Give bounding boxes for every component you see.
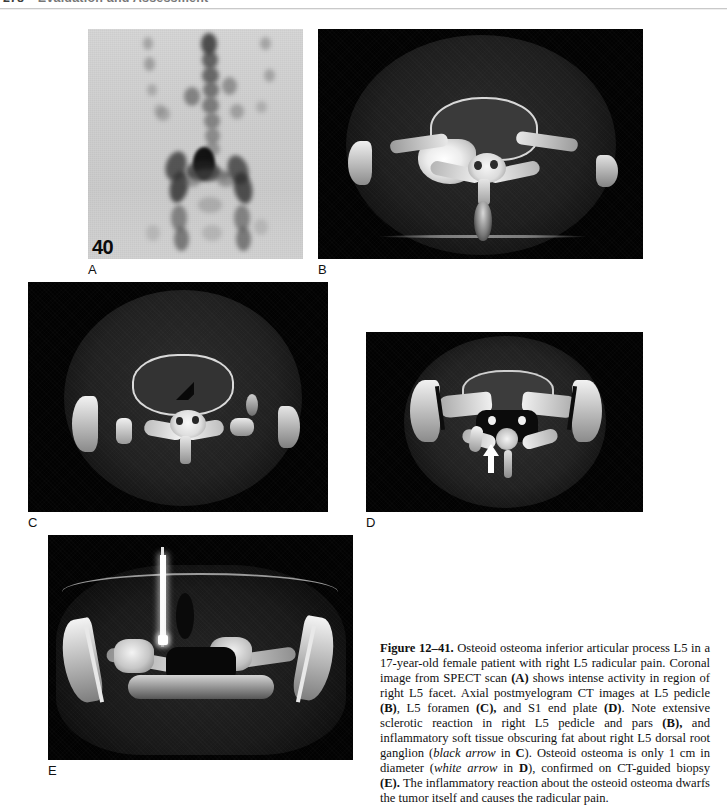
caption-segment: C — [515, 746, 524, 760]
ct-iliac-bone-left — [72, 396, 98, 452]
running-header-content: 278 Evaluation and Assessment — [0, 0, 208, 5]
ct-iliac-bone-left — [348, 141, 372, 185]
caption-segment: in — [496, 746, 516, 760]
spect-uptake — [156, 107, 170, 121]
running-title: Evaluation and Assessment — [38, 0, 209, 5]
ct-superior-articular-process-right — [230, 418, 254, 436]
caption-segment: ), confirmed on CT-guided biopsy — [528, 761, 710, 775]
ct-skin-surface-line — [62, 573, 338, 611]
panel-label-b: B — [318, 263, 327, 276]
caption-segment: D — [519, 761, 528, 775]
caption-segment: in — [498, 761, 519, 775]
ct-spinous-process — [180, 436, 191, 464]
ct-spinous-process-tip — [474, 201, 492, 241]
spect-uptake — [146, 225, 160, 241]
panel-label-e: E — [48, 764, 57, 777]
black-arrow-l5-dorsal-root-ganglion — [170, 380, 196, 404]
spect-uptake — [222, 77, 237, 95]
spect-uptake — [202, 97, 219, 114]
spect-noise-texture — [88, 29, 303, 259]
panel-label-d: D — [366, 516, 375, 529]
figure-panel-b-ct-l5-pedicle — [318, 29, 643, 259]
figure-panel-c-ct-l5-foramen — [28, 282, 328, 512]
ct-nerve-root — [176, 417, 183, 425]
spect-uptake — [202, 225, 222, 241]
ct-nerve-root — [192, 416, 199, 424]
spect-uptake — [230, 104, 244, 119]
caption-segment: The inflammatory reaction about the oste… — [380, 776, 710, 805]
figure-panel-e-ct-guided-biopsy — [48, 535, 353, 760]
ct-nerve-root — [488, 416, 496, 425]
figure-caption-body: Osteoid osteoma inferior articular proce… — [380, 641, 710, 805]
panel-label-c: C — [28, 516, 37, 529]
ct-nerve-root — [490, 160, 498, 169]
ct-sacrum-body — [128, 675, 274, 699]
caption-segment: black arrow — [433, 746, 496, 760]
spect-uptake — [184, 87, 200, 106]
spect-uptake — [254, 219, 268, 235]
spect-slice-marker: 40 — [92, 237, 113, 257]
header-rule-shadow — [0, 9, 727, 10]
ct-nerve-root — [474, 161, 482, 170]
spect-uptake — [204, 113, 220, 129]
ct-iliac-bone-right — [278, 406, 300, 448]
spect-uptake — [256, 101, 267, 113]
caption-segment: (C), — [476, 701, 497, 715]
panel-label-a: A — [88, 263, 97, 276]
spect-uptake — [184, 177, 200, 187]
caption-segment: , L5 foramen — [397, 701, 476, 715]
ct-superior-articular-process-left — [116, 418, 132, 444]
biopsy-needle-tip — [158, 635, 168, 645]
figure-panel-a-spect: 40 — [88, 29, 303, 259]
figure-caption-number: Figure 12–41. — [380, 641, 454, 655]
spect-uptake — [236, 227, 251, 251]
white-arrow-osteoid-osteoma-nidus — [482, 444, 500, 474]
ct-nerve-root — [518, 416, 526, 425]
caption-segment: (B) — [380, 701, 397, 715]
caption-segment: white arrow — [434, 761, 497, 775]
spect-uptake — [174, 227, 189, 251]
caption-segment: (A) — [511, 671, 528, 685]
ct-facet-mass-left — [114, 639, 154, 673]
spect-uptake — [264, 69, 275, 82]
figure-panel-d-ct-s1-endplate — [366, 332, 643, 512]
caption-segment: (D) — [604, 701, 621, 715]
ct-iliac-bone-right — [596, 155, 618, 187]
caption-segment: (B), — [662, 716, 682, 730]
figure-caption: Figure 12–41. Osteoid osteoma inferior a… — [380, 641, 710, 806]
spect-uptake — [203, 82, 219, 98]
biopsy-needle-streak-artifact — [161, 547, 164, 647]
spect-uptake — [198, 197, 222, 213]
spect-uptake — [260, 37, 271, 50]
spect-uptake — [218, 177, 234, 187]
spect-uptake — [144, 57, 155, 71]
ct-paraspinal-fat — [176, 593, 194, 639]
ct-thecal-sac-contrast — [170, 410, 206, 438]
spect-uptake — [143, 37, 153, 50]
ct-median-sacral-crest — [504, 450, 512, 478]
spect-uptake — [147, 84, 157, 96]
caption-segment: (E). — [380, 776, 400, 790]
ct-psoas-bone-fleck — [246, 394, 258, 416]
page-folio-number: 278 — [0, 0, 24, 5]
caption-segment: and S1 end plate — [497, 701, 604, 715]
